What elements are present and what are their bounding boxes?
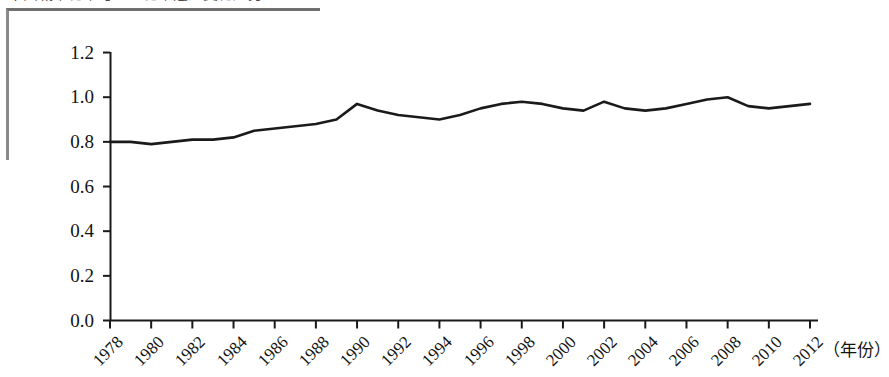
data-series-line (110, 97, 810, 144)
y-tick-label: 0.8 (42, 132, 94, 151)
y-tick-label: 1.2 (42, 43, 94, 62)
line-chart-plot (0, 0, 889, 377)
x-axis-title: （年份） (823, 341, 889, 360)
y-tick-label: 0.6 (42, 177, 94, 196)
y-tick-label: 0.2 (42, 266, 94, 285)
y-tick-marks (103, 53, 110, 321)
y-tick-label: 0.0 (42, 311, 94, 330)
figure: 中国城市化率与工业化率之比变化趋势 0.00.20.40.60.81.01.2 … (0, 0, 889, 377)
y-tick-label: 0.4 (42, 221, 94, 240)
x-tick-marks (110, 321, 810, 329)
y-tick-label: 1.0 (42, 87, 94, 106)
